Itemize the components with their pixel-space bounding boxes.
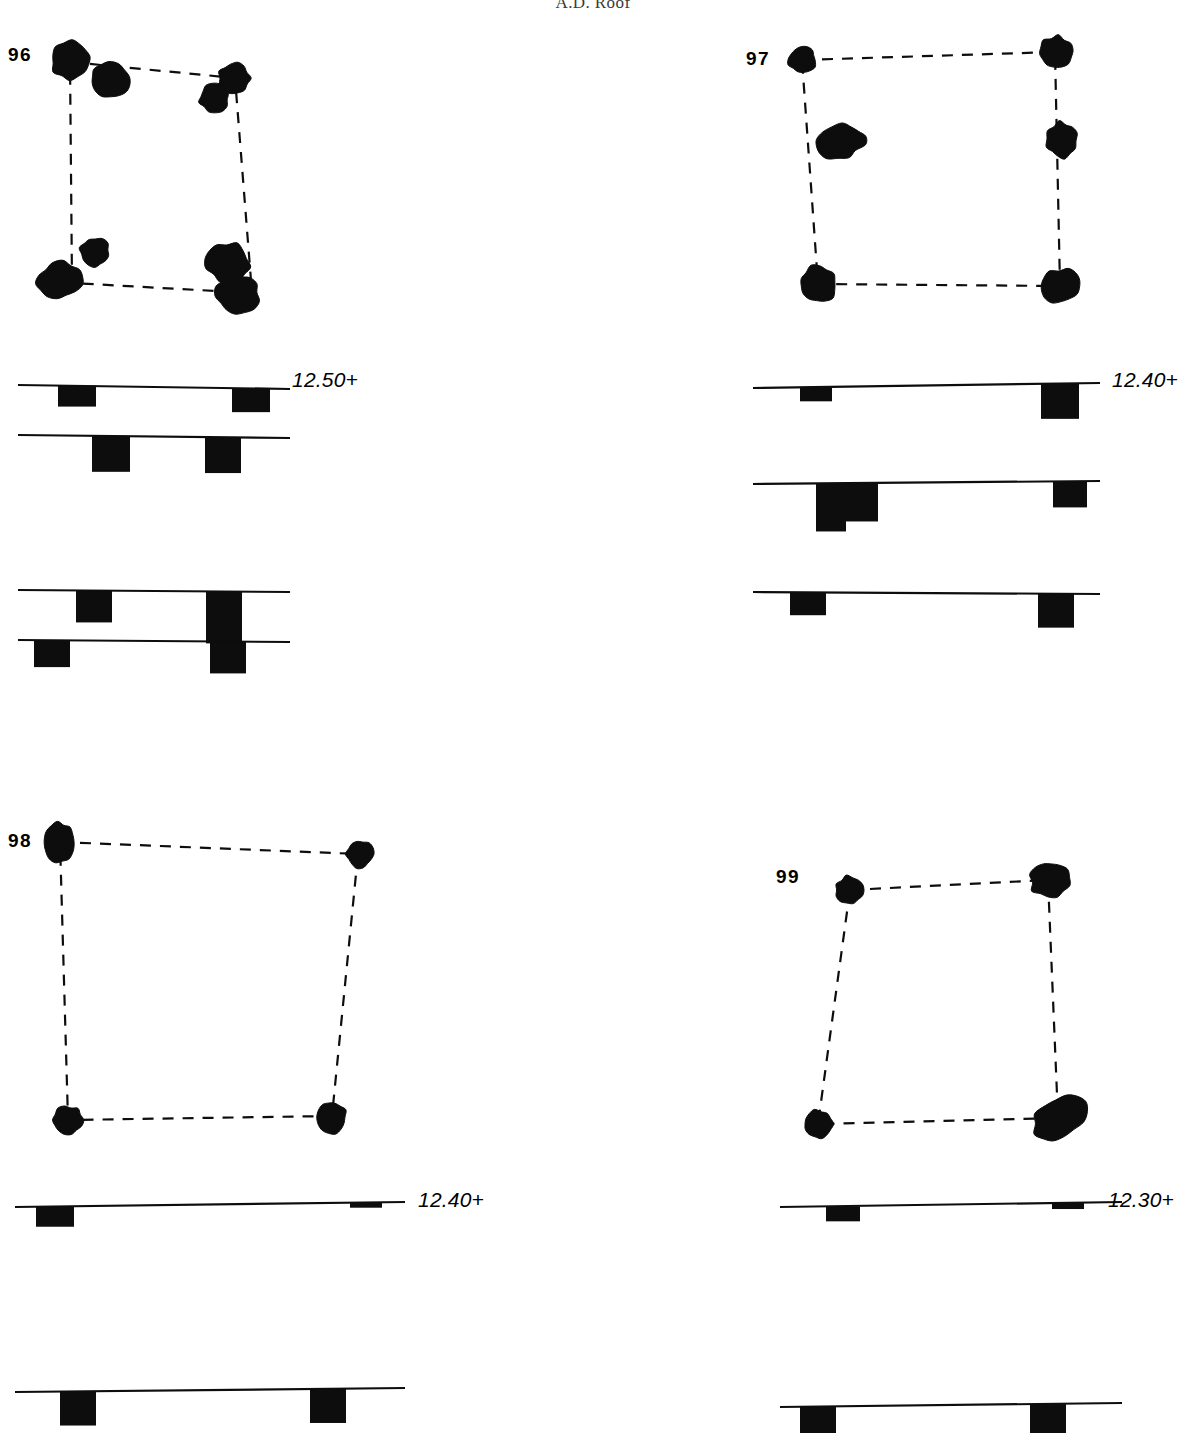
plan-view-96 bbox=[20, 30, 320, 320]
posthole-99-1 bbox=[836, 875, 864, 904]
section-profile-98-2 bbox=[10, 1378, 440, 1428]
plan-dashed-outline bbox=[818, 880, 1058, 1124]
posthole-cut-96-1-1 bbox=[58, 386, 96, 407]
posthole-99-3 bbox=[805, 1109, 834, 1138]
posthole-cut-97-1-1 bbox=[800, 387, 832, 401]
plan-view-97 bbox=[760, 30, 1090, 320]
posthole-98-4 bbox=[317, 1103, 346, 1135]
posthole-cut-99-2-1 bbox=[800, 1407, 836, 1433]
posthole-cut-96-2-1 bbox=[92, 436, 130, 472]
posthole-cut-96-4-1 bbox=[34, 640, 70, 667]
section-profile-99-2 bbox=[770, 1393, 1170, 1433]
posthole-cut-97-3-2 bbox=[1038, 594, 1074, 628]
posthole-cut-99-2-2 bbox=[1030, 1404, 1066, 1433]
posthole-99-4 bbox=[1034, 1095, 1088, 1141]
posthole-96-1 bbox=[53, 40, 91, 81]
plan-view-99 bbox=[790, 850, 1150, 1160]
section-profile-97-1 bbox=[748, 375, 1128, 445]
section-profile-96-2 bbox=[10, 425, 370, 495]
posthole-96-7 bbox=[205, 243, 251, 283]
posthole-96-2 bbox=[92, 61, 130, 97]
posthole-98-1 bbox=[44, 821, 74, 863]
posthole-96-6 bbox=[35, 260, 83, 299]
posthole-cut-99-1-1 bbox=[826, 1206, 860, 1221]
posthole-cut-97-1-2 bbox=[1041, 384, 1079, 419]
posthole-98-2 bbox=[345, 841, 374, 868]
posthole-96-4 bbox=[199, 83, 229, 113]
posthole-cut-98-2-2 bbox=[310, 1389, 346, 1423]
section-profile-98-1 bbox=[10, 1185, 440, 1255]
posthole-97-4 bbox=[1046, 121, 1077, 160]
section-profile-96-4 bbox=[10, 630, 370, 700]
plan-dashed-outline bbox=[802, 52, 1060, 286]
elevation-datum-label-98: 12.40+ bbox=[418, 1188, 484, 1212]
elevation-datum-label-96: 12.50+ bbox=[292, 368, 358, 392]
ground-surface-line bbox=[753, 481, 1100, 484]
running-header: A.D. Roof bbox=[0, 0, 1186, 13]
posthole-cut-96-1-2 bbox=[232, 388, 270, 412]
posthole-98-3 bbox=[53, 1106, 84, 1135]
posthole-cut-98-2-1 bbox=[60, 1392, 96, 1426]
plan-dashed-outline bbox=[60, 842, 358, 1120]
ground-surface-line bbox=[18, 435, 290, 438]
posthole-cut-97-3-1 bbox=[790, 592, 826, 615]
section-profile-97-3 bbox=[748, 580, 1128, 650]
ground-surface-line bbox=[780, 1403, 1122, 1407]
posthole-cut-96-4-2 bbox=[210, 641, 246, 673]
section-profile-97-2 bbox=[748, 470, 1128, 540]
posthole-97-5 bbox=[801, 265, 835, 302]
posthole-97-6 bbox=[1041, 268, 1080, 303]
plan-view-98 bbox=[20, 820, 400, 1140]
posthole-97-3 bbox=[816, 123, 867, 159]
posthole-97-2 bbox=[1040, 35, 1073, 68]
ground-surface-line bbox=[15, 1388, 405, 1392]
posthole-cut-98-1-1 bbox=[36, 1207, 74, 1227]
posthole-99-2 bbox=[1030, 864, 1071, 898]
ground-surface-line bbox=[15, 1202, 405, 1207]
posthole-96-5 bbox=[79, 238, 109, 267]
posthole-cut-97-2-3 bbox=[1053, 481, 1087, 507]
posthole-cut-97-2-2 bbox=[816, 483, 846, 531]
posthole-97-1 bbox=[788, 46, 816, 72]
elevation-datum-label-97: 12.40+ bbox=[1112, 368, 1178, 392]
ground-surface-line bbox=[18, 590, 290, 592]
elevation-datum-label-99: 12.30+ bbox=[1108, 1188, 1174, 1212]
posthole-cut-96-2-2 bbox=[205, 437, 241, 473]
posthole-cut-96-3-1 bbox=[76, 590, 112, 622]
